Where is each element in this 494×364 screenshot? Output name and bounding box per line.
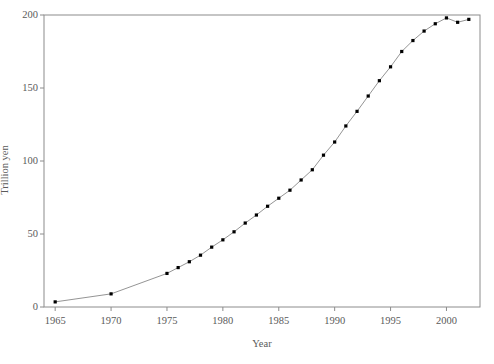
x-tick-label: 2000: [436, 316, 457, 327]
data-point: [344, 124, 347, 127]
data-point: [300, 178, 303, 181]
data-point: [355, 110, 358, 113]
data-point: [255, 213, 258, 216]
y-tick-label: 100: [8, 156, 38, 167]
data-point: [389, 65, 392, 68]
x-tick-label: 1970: [101, 316, 122, 327]
y-tick-label: 200: [8, 10, 38, 21]
data-point: [467, 18, 470, 21]
x-tick-label: 1985: [268, 316, 289, 327]
data-point: [322, 154, 325, 157]
data-point: [188, 260, 191, 263]
chart-figure: 050100150200 196519701975198019851990199…: [0, 0, 494, 364]
tick-marks: [40, 15, 446, 311]
x-tick-label: 1965: [45, 316, 66, 327]
data-point: [333, 140, 336, 143]
plot-canvas: [0, 0, 494, 364]
data-point: [199, 254, 202, 257]
data-point: [210, 246, 213, 249]
plot-frame: [44, 15, 480, 307]
x-tick-label: 1980: [212, 316, 233, 327]
data-point: [277, 197, 280, 200]
data-point: [221, 238, 224, 241]
x-tick-label: 1995: [380, 316, 401, 327]
data-markers: [54, 16, 471, 303]
data-point: [54, 300, 57, 303]
data-point: [411, 39, 414, 42]
data-point: [109, 292, 112, 295]
data-point: [232, 230, 235, 233]
data-point: [311, 168, 314, 171]
data-point: [400, 50, 403, 53]
data-point: [434, 22, 437, 25]
y-tick-label: 50: [8, 229, 38, 240]
data-point: [378, 79, 381, 82]
x-axis-label: Year: [252, 339, 271, 350]
x-tick-label: 1975: [156, 316, 177, 327]
data-line: [55, 18, 469, 302]
data-point: [244, 221, 247, 224]
data-point: [165, 272, 168, 275]
data-point: [445, 16, 448, 19]
data-point: [266, 205, 269, 208]
data-point: [367, 94, 370, 97]
y-tick-label: 150: [8, 83, 38, 94]
y-tick-label: 0: [8, 302, 38, 313]
data-point: [423, 29, 426, 32]
data-point: [456, 21, 459, 24]
y-axis-label: Trillion yen: [0, 145, 11, 195]
data-point: [177, 266, 180, 269]
data-point: [288, 189, 291, 192]
x-tick-label: 1990: [324, 316, 345, 327]
